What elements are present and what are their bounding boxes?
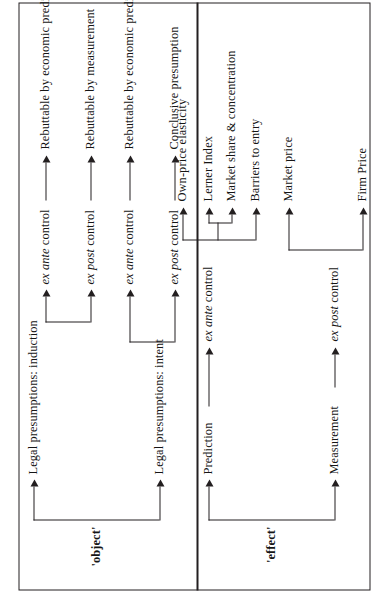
branch-label-measurement: Measurement	[328, 405, 340, 474]
connector-outcome-3	[129, 162, 130, 200]
ex-ante-arm-own-price	[182, 214, 183, 240]
arrow-market-share-concentration	[228, 207, 236, 214]
ex-post-arm-firm-price	[362, 214, 363, 250]
ex-post-italic-3: ex post	[327, 306, 341, 341]
prediction-connector	[208, 354, 209, 406]
stage-label-ex-post-2: ex post control	[168, 210, 180, 284]
outcome-own-price-elasticity: Own-price elasticity	[176, 98, 188, 201]
outcome-market-price: Market price	[282, 136, 294, 201]
diagram-rotated-group: 'object' Legal presumptions: induction e…	[0, 0, 389, 592]
ex-ante-arm-middle	[217, 222, 218, 240]
control-word-4: control	[167, 210, 181, 246]
outcome-lerner-index: Lerner Index	[202, 135, 214, 201]
stage-label-ex-ante-1: ex ante control	[39, 209, 51, 284]
outcome-barriers-to-entry: Barriers to entry	[249, 118, 261, 201]
arrow-barriers-to-entry	[252, 207, 260, 214]
induction-arrow-ex-ante	[42, 289, 50, 296]
control-word-6: control	[327, 267, 341, 303]
object-root-label: 'object'	[90, 526, 102, 566]
control-word-2: control	[83, 210, 97, 246]
object-root-arrow-1	[30, 479, 38, 486]
ex-ante-italic: ex ante	[38, 248, 52, 284]
intent-split-spine	[129, 341, 174, 342]
intent-split-arm-down	[174, 296, 175, 342]
measurement-arrow	[331, 347, 339, 354]
stage-label-ex-ante-2: ex ante control	[123, 209, 135, 284]
ex-post-fan-spine	[288, 249, 362, 250]
effect-root-label: 'effect'	[265, 526, 277, 563]
control-word-3: control	[122, 209, 136, 245]
arrow-lerner-index	[205, 207, 213, 214]
object-root-spine	[33, 519, 159, 520]
ex-ante-arm-barriers	[255, 214, 256, 240]
effect-root-arm-2	[334, 486, 335, 520]
arrow-outcome-1	[42, 155, 50, 162]
intent-arrow-ex-ante	[126, 289, 134, 296]
connector-outcome-2	[90, 162, 91, 200]
ex-post-italic-2: ex post	[167, 249, 181, 284]
outcome-rebuttable-measurement: Rebuttable by measurement	[84, 8, 96, 149]
outcome-rebuttable-economic-prediction-q: Rebuttable by economic prediction?	[123, 0, 135, 149]
induction-split-arm-down	[90, 296, 91, 322]
branch-label-prediction: Prediction	[202, 422, 214, 474]
arrow-outcome-3	[126, 155, 134, 162]
induction-split-arm-up	[45, 296, 46, 322]
ex-post-arm-market-price	[288, 214, 289, 250]
lerner-subgroup-arm-1	[208, 214, 209, 223]
object-root-arm-1	[33, 486, 34, 520]
branch-label-legal-intent: Legal presumptions: intent	[153, 339, 165, 474]
panel-divider	[196, 2, 198, 590]
branch-label-legal-induction: Legal presumptions: induction	[27, 320, 39, 474]
intent-split-arm-up	[129, 296, 130, 342]
control-word-1: control	[38, 209, 52, 245]
ex-post-italic: ex post	[83, 249, 97, 284]
arrow-outcome-2	[87, 155, 95, 162]
connector-outcome-1	[45, 162, 46, 200]
stage-label-ex-post-effect: ex post control	[328, 267, 340, 341]
lerner-subgroup-spine	[208, 222, 231, 223]
ex-ante-italic-3: ex ante	[201, 305, 215, 341]
effect-root-arrow-1	[205, 479, 213, 486]
effect-root-arm-1	[208, 486, 209, 520]
intent-arrow-ex-post	[171, 289, 179, 296]
stage-label-ex-post-1: ex post control	[84, 210, 96, 284]
object-root-arrow-2	[156, 479, 164, 486]
figure-canvas: 'object' Legal presumptions: induction e…	[0, 0, 389, 592]
outcome-market-share-concentration: Market share & concentration	[225, 50, 237, 201]
arrow-firm-price	[359, 207, 367, 214]
measurement-connector	[334, 354, 335, 387]
arrow-market-price	[285, 207, 293, 214]
panel-object	[18, 2, 370, 590]
arrow-own-price-elasticity	[179, 207, 187, 214]
stage-label-ex-ante-effect: ex ante control	[202, 266, 214, 341]
outcome-firm-price: Firm Price	[356, 147, 368, 201]
induction-arrow-ex-post	[87, 289, 95, 296]
prediction-arrow	[205, 347, 213, 354]
effect-root-spine	[208, 519, 334, 520]
effect-root-arrow-2	[331, 479, 339, 486]
lerner-subgroup-arm-2	[231, 214, 232, 223]
control-word-5: control	[201, 266, 215, 302]
object-root-arm-2	[159, 486, 160, 520]
outcome-rebuttable-economic-prediction: Rebuttable by economic prediction	[39, 0, 51, 149]
induction-split-spine	[45, 321, 90, 322]
ex-ante-italic-2: ex ante	[122, 248, 136, 284]
